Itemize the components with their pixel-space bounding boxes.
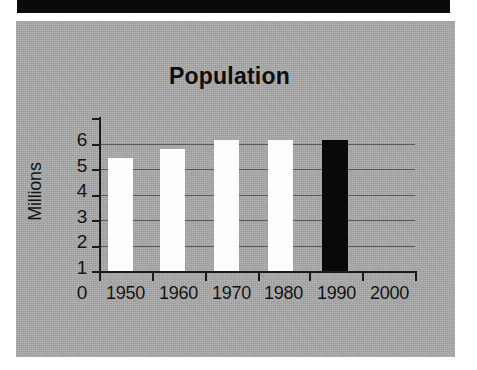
x-category-label-1970: 1970 bbox=[205, 284, 258, 302]
y-tick-mark-6 bbox=[92, 118, 101, 120]
gridline-2 bbox=[99, 220, 415, 221]
bar-1960[interactable] bbox=[160, 149, 185, 271]
x-tick-mark-2 bbox=[205, 271, 207, 281]
x-tick-mark-5 bbox=[362, 271, 364, 281]
gridline-4 bbox=[99, 169, 415, 170]
y-tick-label-4: 4 bbox=[27, 181, 87, 200]
gridline-1 bbox=[99, 246, 415, 247]
bar-1980[interactable] bbox=[268, 140, 293, 271]
gridline-3 bbox=[99, 195, 415, 196]
x-category-label-1950: 1950 bbox=[99, 284, 152, 302]
x-tick-mark-4 bbox=[309, 271, 311, 281]
bar-1950[interactable] bbox=[108, 158, 133, 272]
y-tick-label-6: 6 bbox=[27, 130, 87, 149]
x-tick-mark-3 bbox=[258, 271, 260, 281]
plot-area bbox=[99, 118, 415, 271]
y-tick-label-2: 2 bbox=[27, 232, 87, 251]
y-tick-mark-3 bbox=[92, 195, 101, 197]
y-tick-mark-5 bbox=[92, 144, 101, 146]
y-tick-label-0: 0 bbox=[27, 283, 87, 302]
y-tick-label-3: 3 bbox=[27, 206, 87, 225]
gridline-5 bbox=[99, 144, 415, 145]
x-category-label-1990: 1990 bbox=[310, 284, 363, 302]
gridline-6 bbox=[99, 118, 415, 119]
x-category-label-1960: 1960 bbox=[152, 284, 205, 302]
x-category-label-1980: 1980 bbox=[257, 284, 310, 302]
chart-title-text: Population bbox=[169, 63, 290, 89]
x-tick-mark-0 bbox=[99, 271, 101, 281]
x-tick-mark-1 bbox=[152, 271, 154, 281]
y-tick-label-1: 1 bbox=[27, 257, 87, 276]
y-tick-mark-4 bbox=[92, 169, 101, 171]
bar-1990[interactable] bbox=[322, 140, 348, 271]
bar-1970[interactable] bbox=[214, 140, 239, 271]
header-black-band bbox=[17, 0, 450, 13]
x-category-label-2000: 2000 bbox=[363, 284, 416, 302]
y-axis-tick-labels: 6 5 4 3 2 1 0 bbox=[16, 21, 87, 357]
x-axis-line bbox=[99, 271, 415, 273]
chart-panel: Population Millions 6 5 4 3 2 1 0 bbox=[16, 21, 455, 357]
y-tick-label-5: 5 bbox=[27, 155, 87, 174]
y-tick-mark-1 bbox=[92, 246, 101, 248]
y-tick-mark-2 bbox=[92, 220, 101, 222]
x-tick-mark-6 bbox=[415, 271, 417, 281]
